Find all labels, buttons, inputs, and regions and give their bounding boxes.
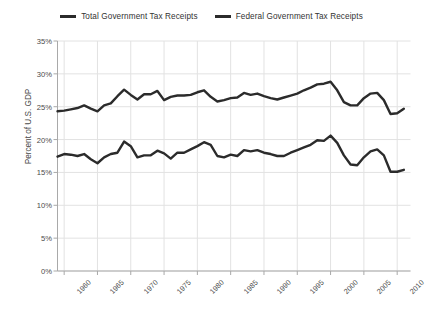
legend-item-federal[interactable]: Federal Government Tax Receipts <box>215 12 363 21</box>
y-axis-tick-label: 35% <box>37 37 52 46</box>
y-axis-tick-label: 10% <box>37 201 52 210</box>
legend-label-total: Total Government Tax Receipts <box>81 12 198 21</box>
y-axis-tick-label: 0% <box>41 267 52 276</box>
y-axis-tick-label: 30% <box>37 69 52 78</box>
y-axis-tick-label: 5% <box>41 234 52 243</box>
legend-swatch-total-line-icon <box>60 15 76 18</box>
chart-legend: Total Government Tax Receipts Federal Go… <box>0 12 423 21</box>
legend-swatch-federal-line-icon <box>215 15 231 18</box>
legend-label-federal: Federal Government Tax Receipts <box>236 12 363 21</box>
y-axis-tick-label: 20% <box>37 135 52 144</box>
y-axis-tick-label: 25% <box>37 102 52 111</box>
y-axis-tick-label: 15% <box>37 168 52 177</box>
legend-item-total[interactable]: Total Government Tax Receipts <box>60 12 198 21</box>
y-axis-tick-labels: 0%5%10%15%20%25%30%35% <box>24 0 52 310</box>
